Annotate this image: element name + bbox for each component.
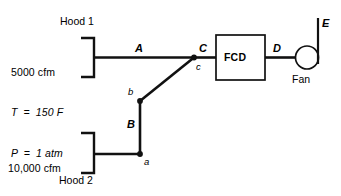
hood-2-specs: 10,000 cfm T = 150 F P = 1 atm [8, 135, 61, 196]
hood-1-temperature: T = 150 F [11, 106, 63, 119]
duct-system-diagram: Hood 1 5000 cfm T = 150 F P = 1 atm 10,0… [0, 0, 341, 196]
hood-1-title: Hood 1 [60, 15, 94, 28]
hood-2-flow: 10,000 cfm [8, 162, 61, 175]
duct-label-c: C [199, 41, 207, 55]
fan-label: Fan [292, 73, 310, 86]
node-label-c: c [196, 61, 201, 73]
duct-label-a: A [135, 41, 143, 55]
node-label-a: a [144, 156, 149, 168]
hood-2-bracket [81, 133, 94, 173]
fan-symbol [296, 46, 319, 69]
node-label-b: b [128, 86, 133, 98]
node-c-dot [191, 55, 197, 61]
hood-1-flow: 5000 cfm [11, 66, 63, 79]
hood-2-title: Hood 2 [59, 174, 93, 187]
duct-label-e: E [322, 16, 329, 30]
fcd-label: FCD [224, 51, 246, 64]
hood-1-bracket [81, 38, 94, 77]
duct-label-b: B [127, 117, 135, 131]
duct-label-d: D [273, 41, 281, 55]
node-a-dot [137, 151, 143, 157]
node-b-dot [137, 98, 143, 104]
duct-segment-diagonal [140, 58, 194, 102]
